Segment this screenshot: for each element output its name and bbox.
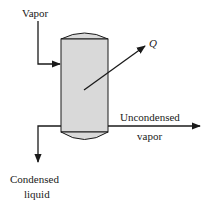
condensed-label-line2: liquid <box>24 188 50 200</box>
diagram-canvas: Vapor Q Uncondensed vapor Condensed liqu… <box>0 0 209 207</box>
heat-label: Q <box>149 37 157 49</box>
vapor-inlet-label: Vapor <box>22 7 49 19</box>
vapor-inlet-stream: Vapor <box>22 7 60 64</box>
uncondensed-label-line2: vapor <box>137 130 162 142</box>
vessel-body <box>61 39 108 132</box>
vessel <box>61 33 108 140</box>
vessel-bottom-dome <box>61 132 108 140</box>
vapor-inlet-arrow <box>38 21 60 64</box>
vessel-top-dome <box>61 33 108 39</box>
condensed-label-line1: Condensed <box>10 173 59 185</box>
uncondensed-label-line1: Uncondensed <box>120 111 180 123</box>
uncondensed-vapor-stream: Uncondensed vapor <box>108 111 200 142</box>
condenser-diagram: Vapor Q Uncondensed vapor Condensed liqu… <box>0 0 209 207</box>
condensed-liquid-arrow <box>38 126 61 162</box>
condensed-liquid-stream: Condensed liquid <box>10 126 61 200</box>
